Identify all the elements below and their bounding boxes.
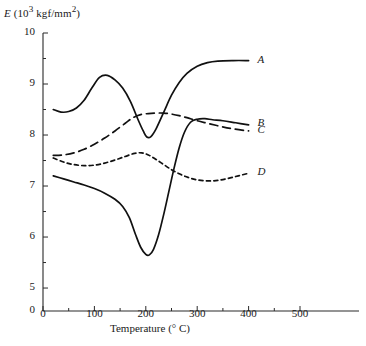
y-tick-label: 5: [13, 280, 35, 292]
chart-figure: E (103 kgf/mm2) Temperature (° C) 567891…: [0, 0, 366, 346]
curve-C: [53, 113, 248, 155]
y-tick-label: 7: [13, 178, 35, 190]
y-tick-label: 10: [13, 25, 35, 37]
curve-label-A: A: [258, 53, 265, 65]
x-tick-label: 300: [182, 307, 212, 319]
curve-label-C: C: [258, 123, 265, 135]
curve-A: [53, 61, 248, 138]
curve-D: [53, 153, 248, 181]
plot-area: [0, 0, 366, 346]
x-tick-label: 500: [285, 307, 315, 319]
x-tick-label: 200: [131, 307, 161, 319]
y-tick-label: 8: [13, 127, 35, 139]
y-tick-label: 9: [13, 76, 35, 88]
curve-B: [53, 119, 248, 256]
x-tick-label: 100: [79, 307, 109, 319]
y-tick-label: 6: [13, 229, 35, 241]
x-tick-label: 400: [234, 307, 264, 319]
axis-lines: [43, 33, 359, 311]
curve-label-D: D: [258, 165, 266, 177]
x-tick-label: 0: [28, 307, 58, 319]
